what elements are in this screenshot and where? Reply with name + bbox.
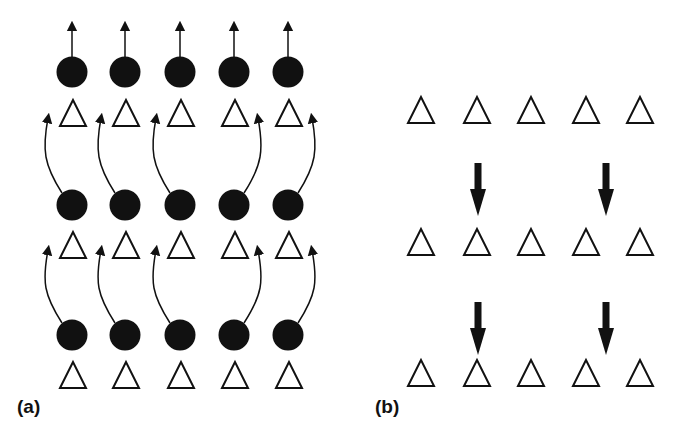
triangle-icon (408, 229, 434, 255)
curved-arrow-icon (98, 250, 115, 323)
triangle-icon (60, 100, 86, 126)
panel-b (408, 97, 653, 386)
triangle-icon (464, 229, 490, 255)
triangle-icon (518, 97, 544, 123)
triangle-icon (60, 232, 86, 258)
down-arrow-icon (470, 302, 486, 355)
filled-circle-icon (165, 320, 196, 351)
triangle-icon (464, 360, 490, 386)
triangle-icon (113, 362, 139, 388)
filled-circle-icon (273, 190, 304, 221)
filled-circle-icon (273, 57, 304, 88)
filled-circle-icon (219, 320, 250, 351)
triangle-icon (573, 97, 599, 123)
triangle-icon (573, 229, 599, 255)
filled-circle-icon (57, 57, 88, 88)
triangle-icon (408, 97, 434, 123)
triangle-icon (408, 360, 434, 386)
down-arrow-icon (598, 302, 614, 355)
filled-circle-icon (273, 320, 304, 351)
curved-arrow-icon (298, 118, 315, 193)
triangle-icon (276, 100, 302, 126)
triangle-icon (222, 232, 248, 258)
triangle-icon (222, 362, 248, 388)
curved-arrow-icon (244, 118, 261, 193)
curved-arrow-icon (45, 118, 62, 193)
down-arrow-icon (470, 163, 486, 216)
triangle-icon (464, 97, 490, 123)
curved-arrow-icon (45, 250, 62, 323)
triangle-icon (276, 362, 302, 388)
triangle-icon (113, 232, 139, 258)
triangle-icon (573, 360, 599, 386)
filled-circle-icon (219, 190, 250, 221)
triangle-icon (113, 100, 139, 126)
triangle-icon (627, 360, 653, 386)
filled-circle-icon (219, 57, 250, 88)
triangle-icon (518, 360, 544, 386)
panel-b-label: (b) (375, 396, 399, 418)
triangle-icon (627, 97, 653, 123)
filled-circle-icon (165, 190, 196, 221)
filled-circle-icon (110, 57, 141, 88)
panel-a (45, 26, 315, 388)
curved-arrow-icon (298, 250, 315, 323)
triangle-icon (276, 232, 302, 258)
filled-circle-icon (110, 190, 141, 221)
filled-circle-icon (57, 320, 88, 351)
triangle-icon (518, 229, 544, 255)
curved-arrow-icon (153, 250, 170, 323)
filled-circle-icon (110, 320, 141, 351)
triangle-icon (168, 232, 194, 258)
triangle-icon (168, 100, 194, 126)
down-arrow-icon (598, 163, 614, 216)
figure-canvas (0, 0, 673, 436)
triangle-icon (168, 362, 194, 388)
curved-arrow-icon (244, 250, 261, 323)
triangle-icon (627, 229, 653, 255)
triangle-icon (222, 100, 248, 126)
filled-circle-icon (57, 190, 88, 221)
curved-arrow-icon (153, 118, 170, 193)
filled-circle-icon (165, 57, 196, 88)
curved-arrow-icon (98, 118, 115, 193)
panel-a-label: (a) (17, 396, 40, 418)
triangle-icon (60, 362, 86, 388)
